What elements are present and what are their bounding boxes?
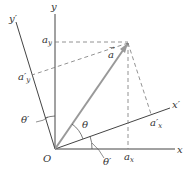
y-prime-axis-label: y′ (9, 14, 17, 24)
origin-label: O (43, 154, 51, 164)
a-y-label: ay (42, 35, 52, 45)
dash-ax-prime (128, 43, 151, 114)
y-axis-label: y (51, 2, 57, 12)
a-x-prime-label: a′x (150, 118, 162, 128)
theta-prime-bottom-label: θ′ (103, 157, 111, 167)
theta-label: θ (82, 120, 88, 130)
theta-prime-left-label: θ′ (21, 115, 29, 125)
a-y-prime-label: a′y (18, 72, 30, 82)
theta-prime-arc-bottom (90, 136, 92, 149)
vector-a (55, 43, 128, 149)
a-x-label: ax (124, 152, 134, 162)
x-prime-axis (55, 108, 170, 149)
x-axis-label: x (177, 145, 183, 155)
rotated-axes-diagram: y y′ x x′ O θ θ′ θ′ →a ay a′y ax a′x (0, 0, 194, 175)
vector-a-label: →a (108, 50, 114, 60)
x-prime-axis-label: x′ (172, 100, 180, 110)
diagram-svg (0, 0, 194, 175)
theta-prime-arc-left (45, 116, 55, 118)
